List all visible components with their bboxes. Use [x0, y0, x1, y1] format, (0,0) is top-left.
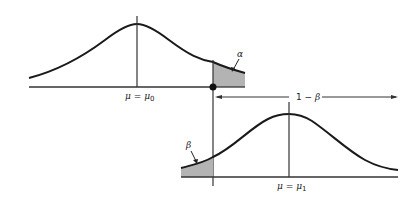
alt-mean-label: μ = μ1 [277, 181, 306, 193]
beta-label: β [185, 140, 191, 150]
power-arrow-left-head [215, 95, 222, 99]
power-diagram: μ = μ0 α 1 − β μ = μ1 β [0, 0, 419, 198]
null-mean-label: μ = μ0 [125, 91, 154, 103]
alpha-shaded-region [213, 62, 245, 87]
power-label: 1 − β [296, 92, 320, 102]
power-arrow-right-head [391, 95, 398, 99]
beta-pointer [191, 151, 196, 161]
power-arrow: 1 − β [215, 92, 398, 102]
critical-value-dot [210, 84, 217, 91]
alpha-label: α [237, 49, 243, 59]
